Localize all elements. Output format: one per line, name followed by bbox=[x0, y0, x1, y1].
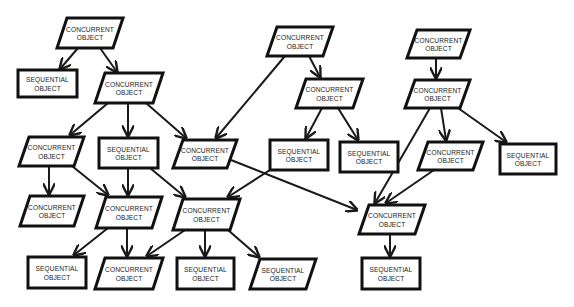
parallelogram-shape bbox=[407, 30, 470, 58]
node-label-line2: OBJECT bbox=[356, 158, 383, 165]
rectangle-shape bbox=[28, 257, 86, 288]
edge-arrow-n12-to-n13 bbox=[441, 108, 446, 140]
parallelogram-shape bbox=[19, 137, 84, 166]
concurrent-object-node: CONCURRENTOBJECT bbox=[359, 205, 425, 234]
node-label-line2: OBJECT bbox=[286, 156, 313, 163]
node-label-line2: OBJECT bbox=[115, 154, 142, 161]
parallelogram-shape bbox=[57, 18, 123, 48]
node-label-line1: SEQUENTIAL bbox=[107, 146, 150, 154]
parallelogram-shape bbox=[359, 205, 425, 234]
rectangle-shape bbox=[362, 258, 420, 289]
rectangle-shape bbox=[270, 140, 328, 170]
node-label-line2: OBJECT bbox=[287, 43, 314, 50]
parallelogram-shape bbox=[173, 140, 237, 168]
node-label-line1: CONCURRENT bbox=[28, 204, 76, 211]
node-label-line2: OBJECT bbox=[38, 153, 65, 160]
edge-arrow-n17-to-n20 bbox=[147, 230, 185, 256]
edge-arrow-n9-to-n17 bbox=[228, 168, 273, 197]
concurrent-object-node: CONCURRENTOBJECT bbox=[405, 80, 470, 108]
node-label-line1: CONCURRENT bbox=[368, 212, 416, 219]
node-label-line1: SEQUENTIAL bbox=[278, 148, 321, 156]
rectangle-shape bbox=[99, 138, 158, 168]
rectangle-shape bbox=[340, 142, 398, 172]
edge-arrow-n8-to-n10 bbox=[338, 108, 358, 140]
parallelogram-shape bbox=[173, 199, 240, 230]
edge-arrow-n1-to-n2 bbox=[60, 48, 78, 69]
sequential-object-node: SEQUENTIALOBJECT bbox=[500, 144, 556, 174]
node-label-line2: OBJECT bbox=[425, 45, 452, 52]
node-label-line1: CONCURRENT bbox=[415, 37, 463, 44]
node-label-line1: CONCURRENT bbox=[28, 144, 76, 151]
concurrent-object-node: CONCURRENTOBJECT bbox=[296, 79, 363, 108]
node-label-line2: OBJECT bbox=[116, 89, 143, 96]
node-label-line2: OBJECT bbox=[44, 274, 71, 281]
concurrent-object-node: CONCURRENTOBJECT bbox=[267, 27, 333, 56]
node-label-line2: OBJECT bbox=[77, 34, 104, 41]
node-label-line1: CONCURRENT bbox=[105, 266, 153, 273]
node-label-line1: CONCURRENT bbox=[276, 34, 324, 41]
node-label-line2: OBJECT bbox=[192, 275, 219, 282]
concurrent-object-node: CONCURRENTOBJECT bbox=[95, 73, 163, 103]
node-label-line1: CONCURRENT bbox=[105, 205, 153, 212]
node-label-line2: OBJECT bbox=[116, 214, 143, 221]
parallelogram-shape bbox=[96, 197, 162, 228]
edge-arrow-n7-to-n6 bbox=[216, 56, 285, 138]
parallelogram-shape bbox=[20, 196, 84, 226]
edge-arrow-n3-to-n4 bbox=[70, 103, 108, 135]
edge-arrow-n1-to-n3 bbox=[100, 48, 117, 72]
edge-arrow-n8-to-n9 bbox=[306, 108, 322, 138]
node-label-line2: OBJECT bbox=[193, 216, 220, 223]
sequential-object-node: SEQUENTIALOBJECT bbox=[250, 259, 316, 289]
edge-arrow-n5-to-n17 bbox=[150, 168, 185, 197]
node-label-line2: OBJECT bbox=[378, 275, 405, 282]
edge-arrow-n3-to-n6 bbox=[146, 103, 186, 138]
parallelogram-shape bbox=[405, 80, 470, 108]
node-label-line2: OBJECT bbox=[192, 155, 219, 162]
node-label-line1: SEQUENTIAL bbox=[507, 152, 550, 160]
node-label-line1: CONCURRENT bbox=[306, 86, 354, 93]
edge-arrow-n16-to-n19 bbox=[74, 228, 108, 255]
edge-arrow-n7-to-n8 bbox=[309, 56, 320, 77]
node-label-line2: OBJECT bbox=[437, 157, 464, 164]
node-label-line1: CONCURRENT bbox=[105, 81, 153, 88]
concurrent-object-node: CONCURRENTOBJECT bbox=[173, 140, 237, 168]
parallelogram-shape bbox=[296, 79, 363, 108]
node-label-line1: CONCURRENT bbox=[183, 207, 231, 214]
node-label-line2: OBJECT bbox=[34, 85, 61, 92]
node-label-line1: CONCURRENT bbox=[181, 147, 229, 154]
concurrent-object-node: CONCURRENTOBJECT bbox=[173, 199, 240, 230]
sequential-object-node: SEQUENTIALOBJECT bbox=[99, 138, 158, 168]
concurrent-object-node: CONCURRENTOBJECT bbox=[19, 137, 84, 166]
concurrent-object-node: CONCURRENTOBJECT bbox=[96, 197, 162, 228]
node-label-line1: CONCURRENT bbox=[414, 87, 462, 94]
rectangle-shape bbox=[500, 144, 556, 174]
concurrent-object-node: CONCURRENTOBJECT bbox=[418, 142, 483, 170]
node-label-line1: SEQUENTIAL bbox=[26, 76, 69, 84]
parallelogram-shape bbox=[250, 259, 316, 289]
parallelogram-shape bbox=[95, 73, 163, 103]
node-label-line2: OBJECT bbox=[379, 221, 406, 228]
node-label-line2: OBJECT bbox=[39, 212, 66, 219]
edge-arrow-n13-to-n18 bbox=[386, 170, 434, 203]
node-label-line1: CONCURRENT bbox=[66, 26, 114, 33]
parallelogram-shape bbox=[267, 27, 333, 56]
sequential-object-node: SEQUENTIALOBJECT bbox=[18, 70, 77, 97]
sequential-object-node: SEQUENTIALOBJECT bbox=[177, 258, 234, 289]
node-label-line1: SEQUENTIAL bbox=[348, 150, 391, 158]
sequential-object-node: SEQUENTIALOBJECT bbox=[28, 257, 86, 288]
concurrent-object-node: CONCURRENTOBJECT bbox=[57, 18, 123, 48]
object-hierarchy-diagram: CONCURRENTOBJECTSEQUENTIALOBJECTCONCURRE… bbox=[0, 0, 574, 307]
node-label-line1: SEQUENTIAL bbox=[36, 265, 79, 273]
rectangle-shape bbox=[18, 70, 77, 97]
edge-arrow-n4-to-n16 bbox=[72, 166, 108, 195]
concurrent-object-node: CONCURRENTOBJECT bbox=[95, 258, 163, 289]
sequential-object-node: SEQUENTIALOBJECT bbox=[362, 258, 420, 289]
node-label-line2: OBJECT bbox=[270, 275, 297, 282]
rectangle-shape bbox=[177, 258, 234, 289]
node-label-line1: SEQUENTIAL bbox=[184, 266, 227, 274]
node-label-line2: OBJECT bbox=[316, 95, 343, 102]
concurrent-object-node: CONCURRENTOBJECT bbox=[407, 30, 470, 58]
parallelogram-shape bbox=[418, 142, 483, 170]
sequential-object-node: SEQUENTIALOBJECT bbox=[270, 140, 328, 170]
parallelogram-shape bbox=[95, 258, 163, 289]
